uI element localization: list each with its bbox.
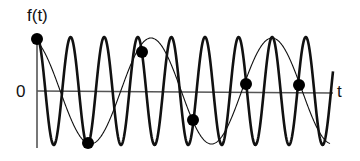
sample-point [240, 78, 252, 90]
sample-point [82, 137, 94, 149]
sample-point [31, 33, 43, 45]
x-axis-label: t [337, 82, 342, 101]
sample-point [187, 114, 199, 126]
origin-label: 0 [16, 82, 25, 101]
y-axis-label: f(t) [27, 6, 48, 25]
sample-point [293, 79, 305, 91]
sample-point [136, 46, 148, 58]
aliasing-diagram: f(t) 0 t [0, 0, 360, 161]
